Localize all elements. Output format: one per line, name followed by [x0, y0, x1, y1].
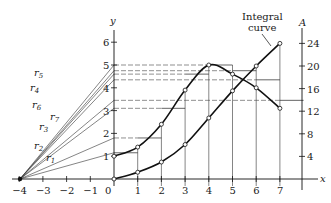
- integral-curve-label: Integral: [242, 11, 283, 22]
- x-axis-label: x: [320, 173, 326, 184]
- x-tick-label: 4: [206, 185, 212, 196]
- data-point: [207, 63, 211, 67]
- a-tick-label: 24: [307, 38, 320, 49]
- a-tick-label: 20: [307, 61, 320, 72]
- x-tick-label: 3: [182, 185, 188, 196]
- ray-label: r4: [30, 82, 39, 95]
- x-tick-label: 7: [277, 185, 283, 196]
- dashed-projection-lines: [114, 65, 280, 153]
- x-tick-label: 6: [253, 185, 259, 196]
- y-tick-label: 1: [103, 151, 109, 162]
- a-tick-label: 12: [307, 106, 320, 117]
- data-point: [159, 160, 163, 164]
- y-axis-label: y: [109, 15, 116, 26]
- x-tick-label: 5: [230, 185, 236, 196]
- a-axis-label: A: [298, 17, 306, 28]
- ray-label: r1: [46, 152, 55, 165]
- data-point: [183, 88, 187, 92]
- ray: [20, 153, 114, 179]
- data-point: [231, 89, 235, 93]
- x-tick-label: −3: [36, 185, 51, 196]
- data-point: [231, 72, 235, 76]
- ray-label: r7: [50, 111, 60, 124]
- x-tick-label: 0: [105, 185, 111, 196]
- y-tick-label: 6: [103, 37, 109, 48]
- data-point: [112, 154, 116, 158]
- data-point: [136, 170, 140, 174]
- y-tick-label: 3: [103, 106, 109, 117]
- data-point: [278, 106, 282, 110]
- y-tick-label: 4: [103, 83, 109, 94]
- a-tick-label: 16: [307, 84, 320, 95]
- x-tick-label: −4: [12, 185, 27, 196]
- data-point: [183, 143, 187, 147]
- ray-label: r3: [39, 121, 49, 134]
- data-point: [159, 122, 163, 126]
- data-point: [207, 116, 211, 120]
- x-tick-label: −1: [83, 185, 98, 196]
- ray-label: r6: [32, 99, 42, 112]
- integral-curve-pointer: [262, 34, 271, 46]
- integration-diagram: −4−3−2−101234567 123456 4812162024 y A x…: [0, 0, 331, 203]
- x-tick-label: 2: [158, 185, 164, 196]
- data-point: [254, 86, 258, 90]
- data-point: [254, 64, 258, 68]
- a-tick-label: 4: [307, 151, 313, 162]
- y-tick-label: 2: [103, 128, 109, 139]
- x-tick-label: −2: [60, 185, 75, 196]
- data-point: [278, 41, 282, 45]
- integral-curve-label-2: curve: [248, 22, 276, 33]
- x-tick-label: 1: [135, 185, 141, 196]
- pole-point: [18, 177, 22, 181]
- ray-label: r2: [34, 140, 44, 153]
- integrand-curve: [114, 64, 280, 156]
- a-tick-label: 8: [307, 129, 313, 140]
- y-tick-label: 5: [103, 60, 109, 71]
- data-point: [136, 145, 140, 149]
- y-axis-ticks: 123456: [103, 37, 117, 162]
- data-point: [112, 177, 116, 181]
- ray-label: r5: [34, 67, 44, 80]
- integral-curve: [114, 43, 280, 179]
